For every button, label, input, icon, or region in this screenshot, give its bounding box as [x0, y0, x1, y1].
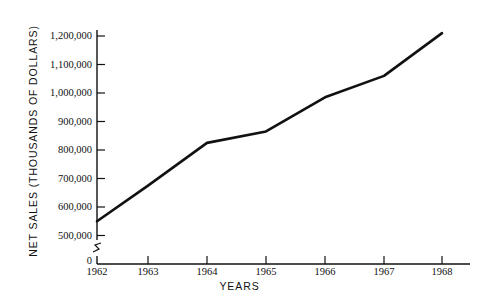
x-tick-label-1967: 1967: [354, 266, 414, 277]
chart-container: 1,200,000 1,100,000 1,000,000 900,000 80…: [0, 0, 479, 303]
data-series-net-sales: [97, 33, 442, 221]
x-tick-label-1966: 1966: [295, 266, 355, 277]
y-axis-title: NET SALES (THOUSANDS OF DOLLARS): [22, 16, 44, 266]
x-tick-label-1965: 1965: [236, 266, 296, 277]
x-tick-label-1963: 1963: [118, 266, 178, 277]
y-axis-title-text: NET SALES (THOUSANDS OF DOLLARS): [27, 25, 39, 257]
x-tick-label-1964: 1964: [177, 266, 237, 277]
x-axis-title: YEARS: [0, 280, 479, 292]
axis-break-icon: [93, 243, 101, 252]
x-tick-label-1968: 1968: [412, 266, 472, 277]
